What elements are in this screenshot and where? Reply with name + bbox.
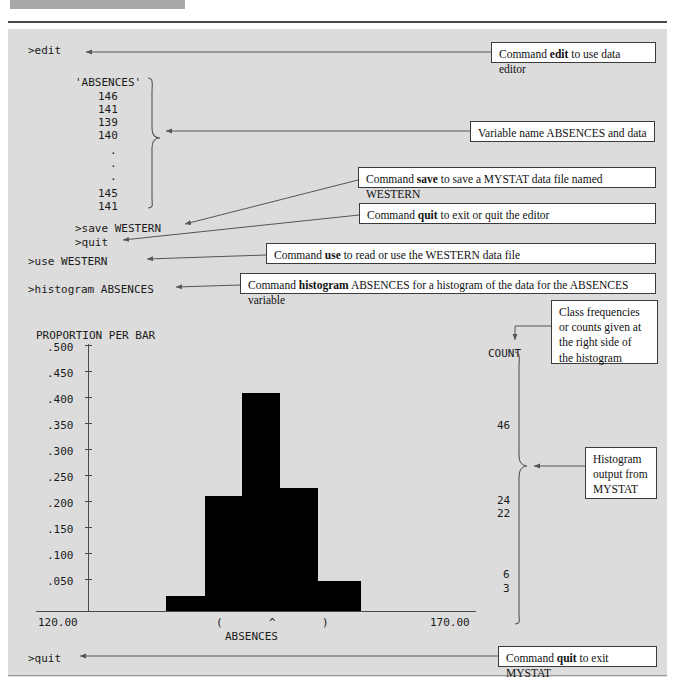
callout-variable: Variable name ABSENCES and data <box>470 121 655 142</box>
ytick-label-4: .300 <box>47 445 74 458</box>
top-horizontal-rule <box>8 21 667 23</box>
callout-edit-pre: Command <box>499 48 550 60</box>
callout-quit-editor-pre: Command <box>367 209 418 221</box>
histogram-bar-3 <box>205 496 242 611</box>
terminal-data-6: . <box>110 170 117 183</box>
xtick-label-min: 120.00 <box>38 616 78 629</box>
callout-counts-line2: or counts given at <box>559 320 650 335</box>
chart-axis-marks: ( ^ ) <box>216 616 329 629</box>
callout-output-line1: Histogram <box>593 452 649 467</box>
ytick-mark-7 <box>85 527 92 528</box>
callout-use-bold: use <box>325 249 341 261</box>
terminal-data-0: 146 <box>98 90 118 103</box>
terminal-line-save: >save WESTERN <box>75 222 161 235</box>
count-label-22: 22 <box>497 507 510 520</box>
ytick-mark-9 <box>85 579 92 580</box>
xtick-label-max: 170.00 <box>430 616 470 629</box>
callout-quit-editor-post: to exit or quit the editor <box>438 209 550 221</box>
callout-quit-editor: Command quit to exit or quit the editor <box>359 203 656 224</box>
callout-counts-line1: Class frequencies <box>559 305 650 320</box>
callout-histogram: Command histogram ABSENCES for a histogr… <box>240 273 656 294</box>
ytick-label-8: .100 <box>47 549 74 562</box>
callout-quit-mystat: Command quit to exit MYSTAT <box>498 646 657 667</box>
ytick-label-2: .400 <box>47 393 74 406</box>
ytick-label-9: .050 <box>47 575 74 588</box>
terminal-data-8: 141 <box>98 200 118 213</box>
terminal-data-1: 141 <box>98 103 118 116</box>
count-label-6: 6 <box>503 568 510 581</box>
terminal-data-5: . <box>110 157 117 170</box>
callout-use: Command use to read or use the WESTERN d… <box>266 243 656 264</box>
ytick-mark-2 <box>85 397 92 398</box>
ytick-label-1: .450 <box>47 367 74 380</box>
ytick-mark-8 <box>85 553 92 554</box>
callout-output-line3: MYSTAT <box>593 482 649 497</box>
histogram-bar-5 <box>280 488 318 611</box>
terminal-line-use: >use WESTERN <box>28 255 107 268</box>
callout-histogram-pre: Command <box>248 279 299 291</box>
screenshot-root: >edit 'ABSENCES' 146 141 139 140 . . . 1… <box>0 0 675 684</box>
terminal-line-quit-editor: >quit <box>75 236 108 249</box>
count-label-46: 46 <box>497 419 510 432</box>
terminal-data-4: . <box>110 144 117 157</box>
callout-quit-mystat-pre: Command <box>506 652 557 664</box>
callout-histogram-bold: histogram <box>299 279 349 291</box>
terminal-data-3: 140 <box>98 129 118 142</box>
histogram-bar-4 <box>242 393 280 611</box>
chart-xlabel: ABSENCES <box>225 630 278 643</box>
ytick-label-3: .350 <box>47 419 74 432</box>
ytick-label-6: .200 <box>47 497 74 510</box>
histogram-bar-1 <box>166 596 205 611</box>
terminal-line-edit: >edit <box>28 44 61 57</box>
callout-output-line2: output from <box>593 467 649 482</box>
count-label-24: 24 <box>497 494 510 507</box>
terminal-line-quit-mystat: >quit <box>28 652 61 665</box>
ytick-mark-1 <box>85 371 92 372</box>
callout-counts-line3: the right side of <box>559 335 650 350</box>
callout-quit-editor-bold: quit <box>418 209 438 221</box>
callout-quit-mystat-bold: quit <box>557 652 577 664</box>
callout-counts: Class frequencies or counts given at the… <box>551 300 658 364</box>
ytick-mark-0 <box>85 345 92 346</box>
ytick-mark-3 <box>85 423 92 424</box>
chart-x-axis <box>36 611 476 612</box>
ytick-label-5: .250 <box>47 471 74 484</box>
chart-y-axis <box>88 344 89 611</box>
callout-save: Command save to save a MYSTAT data file … <box>358 167 656 188</box>
count-label-3: 3 <box>503 582 510 595</box>
ytick-label-0: .500 <box>47 341 74 354</box>
callout-use-post: to read or use the WESTERN data file <box>341 249 520 261</box>
callout-edit-bold: edit <box>550 48 569 60</box>
ytick-mark-5 <box>85 475 92 476</box>
callout-output: Histogram output from MYSTAT <box>585 447 657 499</box>
terminal-data-7: 145 <box>98 187 118 200</box>
callout-save-bold: save <box>417 173 438 185</box>
terminal-data-2: 139 <box>98 116 118 129</box>
ytick-label-7: .150 <box>47 523 74 536</box>
ytick-mark-4 <box>85 449 92 450</box>
callout-counts-line4: the histogram <box>559 351 650 366</box>
callout-variable-text: Variable name ABSENCES and data <box>478 127 647 139</box>
ytick-mark-6 <box>85 501 92 502</box>
callout-save-pre: Command <box>366 173 417 185</box>
callout-edit: Command edit to use data editor <box>491 42 656 63</box>
terminal-variable-name: 'ABSENCES' <box>75 76 141 89</box>
callout-use-pre: Command <box>274 249 325 261</box>
histogram-bar-6 <box>318 581 361 611</box>
bottom-horizontal-rule <box>8 675 667 676</box>
terminal-line-histogram: >histogram ABSENCES <box>28 283 154 296</box>
top-grey-bar <box>10 0 185 9</box>
count-axis-label: COUNT <box>488 347 521 360</box>
